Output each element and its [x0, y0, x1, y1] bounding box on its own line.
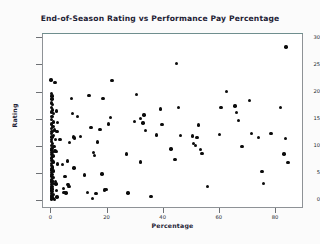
scatter-point: [91, 197, 94, 200]
scatter-point: [72, 166, 75, 169]
y-axis-tick: [36, 37, 42, 38]
scatter-point: [173, 158, 176, 161]
scatter-point: [66, 159, 69, 162]
scatter-point: [169, 147, 172, 150]
y-axis-tick-label: 20: [296, 89, 320, 94]
chart-figure: End-of-Season Rating vs Performance Pay …: [0, 0, 320, 244]
scatter-point: [144, 129, 147, 132]
y-axis-tick: [36, 200, 42, 201]
scatter-point: [218, 133, 221, 136]
x-axis-tick-label: 20: [94, 214, 120, 220]
scatter-point: [225, 90, 228, 93]
y-axis-tick-label: 25: [296, 62, 320, 67]
x-axis-tick: [107, 208, 108, 213]
scatter-point: [206, 185, 209, 188]
scatter-point: [86, 191, 89, 194]
scatter-point: [175, 62, 178, 65]
scatter-point: [135, 93, 138, 96]
scatter-point: [56, 162, 59, 165]
scatter-point: [219, 106, 222, 109]
chart-title: End-of-Season Rating vs Performance Pay …: [0, 14, 320, 23]
x-axis-tick-label: 0: [37, 214, 63, 220]
scatter-point: [191, 134, 194, 137]
scatter-point: [55, 130, 58, 133]
scatter-point: [142, 113, 145, 116]
x-axis-tick-label: 80: [262, 214, 288, 220]
scatter-point: [235, 111, 238, 114]
scatter-point: [262, 182, 265, 185]
scatter-point: [179, 134, 182, 137]
scatter-plot-area: [42, 33, 303, 208]
scatter-point: [71, 112, 74, 115]
scatter-point: [279, 106, 282, 109]
scatter-point: [79, 135, 82, 138]
scatter-point: [109, 116, 112, 119]
scatter-point: [104, 188, 107, 191]
y-axis-tick-label: 30: [296, 35, 320, 40]
scatter-point: [53, 81, 56, 84]
x-axis-tick: [275, 208, 276, 213]
scatter-point: [98, 128, 101, 131]
y-axis-tick-label: 0: [296, 197, 320, 202]
x-axis-tick-label: 60: [206, 214, 232, 220]
scatter-point: [68, 141, 71, 144]
scatter-point: [237, 119, 240, 122]
scatter-point: [233, 104, 236, 107]
scatter-point: [54, 138, 57, 141]
scatter-point: [76, 115, 79, 118]
scatter-point: [197, 123, 200, 126]
scatter-point: [107, 122, 110, 125]
scatter-point: [63, 175, 66, 178]
scatter-point: [250, 132, 253, 135]
scatter-point: [67, 185, 70, 188]
y-axis-title: Rating: [11, 86, 18, 146]
scatter-point: [257, 136, 260, 139]
x-axis-tick: [50, 208, 51, 213]
scatter-point: [248, 99, 251, 102]
scatter-point: [260, 170, 263, 173]
scatter-point: [284, 45, 287, 48]
y-axis-tick-label: 5: [296, 170, 320, 175]
scatter-point: [73, 136, 76, 139]
scatter-point: [55, 150, 58, 153]
scatter-point: [96, 140, 99, 143]
y-axis-tick-label: 15: [296, 116, 320, 121]
scatter-point: [139, 160, 142, 163]
scatter-point: [200, 152, 203, 155]
scatter-point: [110, 79, 113, 82]
scatter-point: [93, 154, 96, 157]
scatter-point: [94, 192, 97, 195]
scatter-point: [160, 123, 163, 126]
y-axis-tick: [36, 119, 42, 120]
scatter-point: [194, 144, 197, 147]
scatter-point: [284, 137, 287, 140]
scatter-point: [149, 195, 152, 198]
scatter-point: [177, 106, 180, 109]
scatter-point: [64, 191, 67, 194]
scatter-point: [101, 97, 104, 100]
y-axis-tick-label: 10: [296, 143, 320, 148]
scatter-point: [141, 121, 144, 124]
scatter-point: [269, 132, 272, 135]
scatter-point: [89, 126, 92, 129]
scatter-point: [240, 145, 243, 148]
scatter-point: [87, 94, 90, 97]
scatter-point: [199, 148, 202, 151]
x-axis-title: Percentage: [42, 222, 303, 229]
scatter-point: [133, 120, 136, 123]
scatter-point: [58, 138, 61, 141]
scatter-point: [70, 97, 73, 100]
y-axis-tick: [36, 64, 42, 65]
scatter-point: [159, 107, 162, 110]
x-axis-tick: [219, 208, 220, 213]
y-axis-tick: [36, 173, 42, 174]
scatter-point: [100, 172, 103, 175]
scatter-point: [155, 133, 158, 136]
scatter-point: [282, 152, 285, 155]
x-axis-tick-label: 40: [150, 214, 176, 220]
scatter-point: [61, 163, 64, 166]
y-axis-tick: [36, 146, 42, 147]
scatter-point: [55, 109, 58, 112]
scatter-point: [83, 173, 86, 176]
y-axis-tick: [36, 92, 42, 93]
